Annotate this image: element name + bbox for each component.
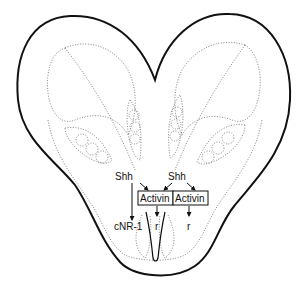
right-inner-cell-chain [169,95,183,158]
arrow-shh-left-to-activin [140,183,148,190]
left-dotted-lobe [47,44,135,135]
arrow-shh-right-to-activin-right [187,183,195,190]
midline-v-shape [146,212,165,261]
right-floor-dotted [159,215,174,258]
activin-right-label: Activin [175,193,204,204]
inner-dotted-outline [48,120,262,260]
arrow-shh-right-to-activin-left [164,183,172,190]
right-lobe-inner-line [175,45,245,170]
r-left-label: r [155,221,159,232]
right-outer-cell-chain [197,125,245,164]
left-lobe-inner-line [65,48,135,170]
r-right-label: r [187,221,191,232]
diagram-canvas: Shh Shh Activin Activin cNR-1 r r [0,0,307,290]
left-outer-cell-chain [65,127,112,163]
activin-left-label: Activin [140,193,169,204]
cnr1-label: cNR-1 [114,221,143,232]
shh-right-label: Shh [168,171,186,182]
outer-tissue-outline [17,14,290,275]
shh-left-label: Shh [115,171,133,182]
left-inner-cell-chain [127,100,141,160]
right-dotted-lobe [175,42,260,135]
